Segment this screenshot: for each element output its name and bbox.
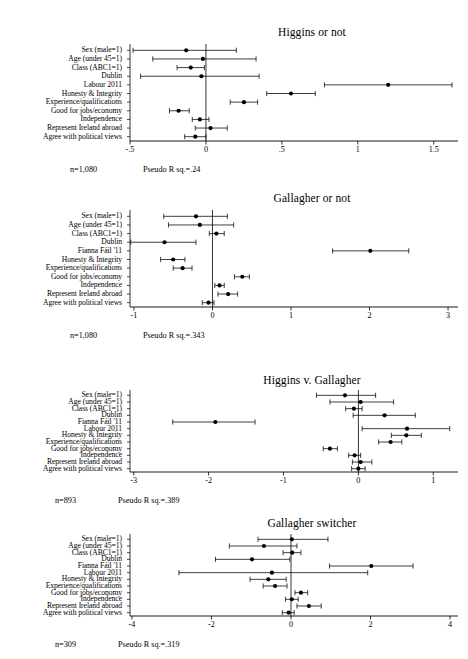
x-tick-label: -.5: [126, 145, 135, 154]
estimate-point-marker: [270, 571, 274, 575]
estimate-point-marker: [262, 544, 266, 548]
y-axis-label: Good for jobs/economy: [51, 445, 122, 453]
estimate-point-marker: [299, 591, 303, 595]
panel-title: Higgins or not: [192, 26, 432, 38]
estimate-point-marker: [213, 420, 217, 424]
plot-area: [0, 0, 468, 659]
y-axis-label: Sex (male=1): [81, 391, 122, 399]
y-axis-label: Good for jobs/economy: [51, 107, 122, 115]
estimate-point-marker: [189, 65, 193, 69]
estimate-point-marker: [198, 117, 202, 121]
y-axis-label: Class (ABC1=1): [72, 64, 122, 72]
y-axis-label: Class (ABC1=1): [72, 230, 122, 238]
x-tick-label: 0: [204, 145, 208, 154]
y-axis-label: Age (under 45=1): [68, 55, 122, 63]
y-axis-label: Experience/qualifications: [46, 438, 122, 446]
y-axis-label: Dublin: [101, 238, 122, 246]
estimate-point-marker: [242, 100, 246, 104]
x-tick-label: 1.5: [429, 145, 439, 154]
estimate-point-marker: [290, 597, 294, 601]
estimate-point-marker: [287, 611, 291, 615]
y-axis-label: Sex (male=1): [81, 212, 122, 220]
y-axis-label: Represent Ireland abroad: [47, 458, 122, 466]
x-tick-label: .5: [279, 145, 285, 154]
x-tick-label: 3: [446, 311, 450, 320]
y-axis-label: Experience/qualifications: [46, 98, 122, 106]
pseudo-r-squared-label: Pseudo R sq.=.319: [118, 640, 179, 649]
estimate-point-marker: [356, 467, 360, 471]
y-axis-label: Fianna Fáil '11: [78, 247, 122, 255]
pseudo-r-squared-label: Pseudo R sq.=.24: [143, 165, 200, 174]
y-axis-label: Independence: [80, 451, 122, 459]
y-axis-label: Honesty & Integrity: [62, 90, 122, 98]
x-tick-label: -2: [205, 476, 212, 485]
y-axis-label: Age (under 45=1): [68, 398, 122, 406]
x-tick-label: 0: [210, 311, 214, 320]
estimate-point-marker: [369, 564, 373, 568]
panel-higgins-v-gallagher: Higgins v. GallagherSex (male=1)Age (und…: [0, 0, 468, 659]
estimate-point-marker: [353, 453, 357, 457]
y-axis-label: Honesty & Integrity: [62, 431, 122, 439]
y-axis-label: Sex (male=1): [81, 535, 122, 543]
y-axis-label: Labour 2011: [84, 425, 122, 433]
estimate-point-marker: [290, 537, 294, 541]
y-axis-label: Represent Ireland abroad: [47, 124, 122, 132]
estimate-point-marker: [198, 223, 202, 227]
y-axis-label: Sex (male=1): [81, 46, 122, 54]
x-tick-label: 4: [448, 620, 452, 629]
y-axis-label: Age (under 45=1): [68, 221, 122, 229]
pseudo-r-squared-label: Pseudo R sq.=.389: [118, 496, 179, 505]
estimate-point-marker: [171, 257, 175, 261]
y-axis-label: Experience/qualifications: [46, 264, 122, 272]
y-axis-label: Agree with political views: [43, 133, 122, 141]
estimate-point-marker: [386, 83, 390, 87]
estimate-point-marker: [194, 214, 198, 218]
estimate-point-marker: [217, 283, 221, 287]
estimate-point-marker: [206, 301, 210, 305]
y-axis-label: Labour 2011: [84, 81, 122, 89]
y-axis-label: Good for jobs/economy: [51, 589, 122, 597]
estimate-point-marker: [181, 266, 185, 270]
estimate-point-marker: [214, 231, 218, 235]
y-axis-label: Independence: [80, 281, 122, 289]
estimate-point-marker: [266, 577, 270, 581]
estimate-point-marker: [405, 427, 409, 431]
panel-title: Gallagher or not: [192, 192, 432, 204]
y-axis-label: Independence: [80, 595, 122, 603]
sample-size-label: n=893: [55, 496, 76, 505]
x-tick-label: -2: [208, 620, 215, 629]
plot-area: [0, 0, 468, 659]
estimate-point-marker: [290, 551, 294, 555]
estimate-point-marker: [193, 135, 197, 139]
pseudo-r-squared-label: Pseudo R sq.=.343: [143, 331, 204, 340]
estimate-point-marker: [352, 407, 356, 411]
panel-title: Gallagher switcher: [192, 517, 432, 529]
estimate-point-marker: [162, 240, 166, 244]
x-tick-label: -1: [131, 311, 138, 320]
y-axis-label: Independence: [80, 115, 122, 123]
y-axis-label: Dublin: [101, 411, 122, 419]
panel-gallagher-or-not: Gallagher or notSex (male=1)Age (under 4…: [0, 0, 468, 659]
estimate-point-marker: [240, 275, 244, 279]
y-axis-label: Agree with political views: [43, 609, 122, 617]
sample-size-label: n=309: [55, 640, 76, 649]
y-axis-label: Fianna Fáil '11: [78, 418, 122, 426]
y-axis-label: Class (ABC1=1): [72, 549, 122, 557]
x-tick-label: -1: [280, 476, 287, 485]
y-axis-label: Honesty & Integrity: [62, 256, 122, 264]
estimate-point-marker: [359, 460, 363, 464]
estimate-point-marker: [359, 400, 363, 404]
coefficient-plot-figure: Higgins or notSex (male=1)Age (under 45=…: [0, 0, 468, 659]
estimate-point-marker: [383, 413, 387, 417]
estimate-point-marker: [201, 57, 205, 61]
estimate-point-marker: [250, 557, 254, 561]
y-axis-label: Honesty & Integrity: [62, 575, 122, 583]
estimate-point-marker: [388, 440, 392, 444]
y-axis-label: Class (ABC1=1): [72, 405, 122, 413]
y-axis-label: Fianna Fáil '11: [78, 562, 122, 570]
plot-area: [0, 0, 468, 659]
x-tick-label: 1: [431, 476, 435, 485]
estimate-point-marker: [307, 604, 311, 608]
panel-gallagher-switcher: Gallagher switcherSex (male=1)Age (under…: [0, 0, 468, 659]
y-axis-label: Labour 2011: [84, 569, 122, 577]
